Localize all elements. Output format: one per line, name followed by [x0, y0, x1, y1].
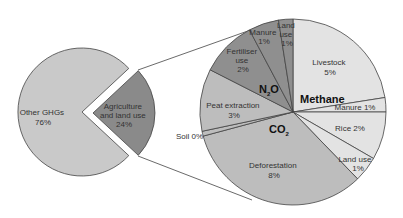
- label-soil: Soil 0%: [176, 132, 203, 141]
- pie-chart-figure: Other GHGs 76% Agriculture and land use …: [0, 0, 403, 218]
- group-label-methane: Methane: [300, 93, 345, 105]
- label-rice: Rice 2%: [335, 124, 365, 133]
